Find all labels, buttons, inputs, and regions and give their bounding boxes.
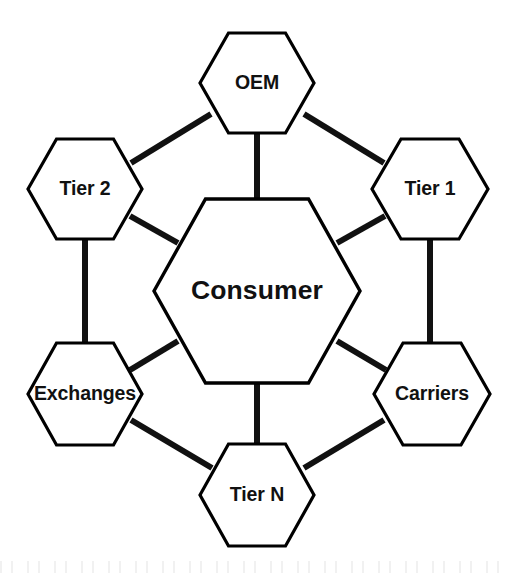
hex-label-exchanges: Exchanges (34, 382, 136, 404)
hex-label-tier2: Tier 2 (59, 177, 110, 199)
hex-label-tiern: Tier N (230, 483, 284, 505)
hex-label-consumer: Consumer (191, 275, 323, 305)
diagram-canvas: OEMTier 1CarriersTier NExchangesTier 2Co… (0, 0, 513, 573)
hex-label-oem: OEM (235, 71, 279, 93)
hex-label-tier1: Tier 1 (404, 177, 455, 199)
hexagon-network-diagram: OEMTier 1CarriersTier NExchangesTier 2Co… (0, 0, 513, 573)
hex-label-carriers: Carriers (395, 382, 469, 404)
